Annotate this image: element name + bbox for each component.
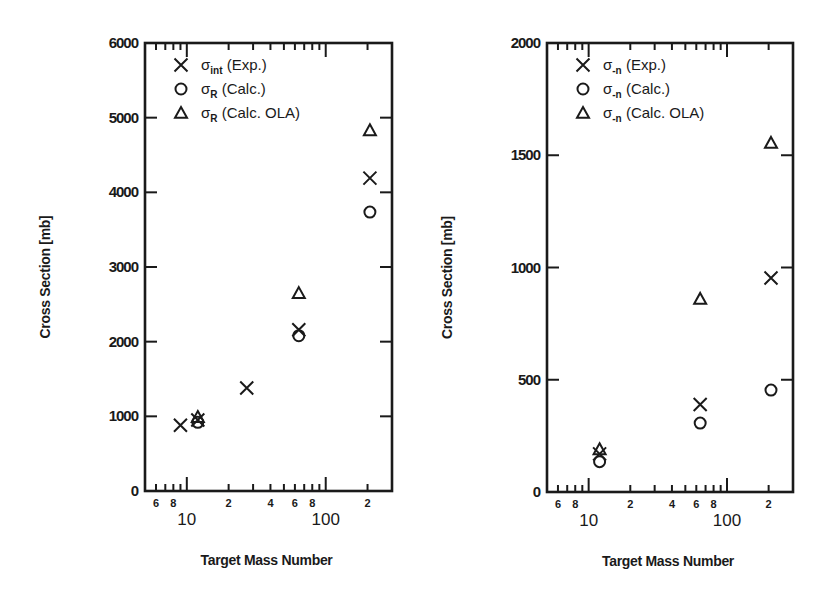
legend-description: (Calc. OLA) bbox=[622, 104, 705, 121]
right-panel-neutron-removal-chart: 0500100015002000682468210100Target Mass … bbox=[439, 34, 793, 569]
x-major-tick-label: 100 bbox=[312, 510, 340, 529]
x-minor-tick-label: 8 bbox=[572, 498, 578, 510]
data-series-triangle bbox=[192, 124, 376, 422]
x-minor-tick-label: 2 bbox=[766, 498, 772, 510]
x-marker-icon bbox=[764, 272, 777, 285]
x-minor-tick-label: 8 bbox=[309, 497, 315, 509]
y-tick-label: 1500 bbox=[511, 146, 541, 163]
y-tick-label: 500 bbox=[518, 371, 541, 388]
legend-entry-label: σ-n (Exp.) bbox=[603, 56, 666, 76]
legend-description: (Calc.) bbox=[622, 80, 670, 97]
figure: 0100020003000400050006000682468210100Tar… bbox=[0, 0, 833, 602]
legend-entry-label: σR (Calc. OLA) bbox=[201, 104, 300, 124]
legend-description: (Exp.) bbox=[622, 56, 666, 73]
triangle-marker-icon bbox=[765, 137, 777, 148]
legend-entry-label: σint (Exp.) bbox=[201, 56, 267, 76]
y-tick-label: 2000 bbox=[511, 34, 541, 51]
x-minor-tick-label: 6 bbox=[555, 498, 561, 510]
x-major-tick-label: 10 bbox=[177, 510, 196, 529]
scatter-plots: 0100020003000400050006000682468210100Tar… bbox=[0, 0, 833, 602]
data-series-x bbox=[174, 172, 376, 432]
data-series-circle bbox=[594, 385, 776, 468]
legend-description: (Calc. OLA) bbox=[218, 104, 301, 121]
circle-marker-icon bbox=[578, 84, 589, 95]
circle-marker-icon bbox=[594, 456, 605, 467]
legend: σ-n (Exp.)σ-n (Calc.)σ-n (Calc. OLA) bbox=[577, 56, 705, 124]
left-panel-cross-section-chart: 0100020003000400050006000682468210100Tar… bbox=[37, 34, 392, 568]
x-marker-icon bbox=[240, 381, 253, 394]
data-series-x bbox=[593, 272, 777, 461]
triangle-marker-icon bbox=[694, 293, 706, 304]
x-minor-tick-label: 6 bbox=[292, 497, 298, 509]
circle-marker-icon bbox=[765, 385, 776, 396]
legend-subscript: -n bbox=[612, 113, 621, 124]
x-major-tick-label: 10 bbox=[579, 511, 598, 530]
x-minor-tick-label: 8 bbox=[170, 497, 176, 509]
x-axis-title: Target Mass Number bbox=[200, 552, 333, 568]
x-minor-tick-label: 2 bbox=[226, 497, 232, 509]
legend-entry-label: σ-n (Calc.) bbox=[603, 80, 670, 100]
x-major-tick-label: 100 bbox=[713, 511, 741, 530]
y-tick-label: 3000 bbox=[109, 258, 139, 275]
x-axis-title: Target Mass Number bbox=[602, 553, 735, 569]
x-marker-icon bbox=[363, 172, 376, 185]
legend-entry-label: σR (Calc.) bbox=[201, 80, 266, 100]
data-series-triangle bbox=[594, 137, 777, 454]
triangle-marker-icon bbox=[175, 107, 187, 118]
circle-marker-icon bbox=[364, 207, 375, 218]
x-minor-tick-label: 2 bbox=[627, 498, 633, 510]
x-minor-tick-label: 2 bbox=[364, 497, 370, 509]
y-axis-title: Cross Section [mb] bbox=[439, 216, 455, 339]
legend-description: (Calc.) bbox=[218, 80, 266, 97]
legend-description: (Exp.) bbox=[222, 56, 266, 73]
triangle-marker-icon bbox=[577, 107, 589, 118]
y-tick-label: 1000 bbox=[511, 259, 541, 276]
legend: σint (Exp.)σR (Calc.)σR (Calc. OLA) bbox=[175, 56, 301, 124]
x-marker-icon bbox=[694, 398, 707, 411]
y-tick-label: 6000 bbox=[109, 34, 139, 51]
legend-subscript: int bbox=[210, 65, 223, 76]
legend-subscript: -n bbox=[612, 89, 621, 100]
x-minor-tick-label: 6 bbox=[153, 497, 159, 509]
circle-marker-icon bbox=[176, 84, 187, 95]
x-marker-icon bbox=[174, 419, 187, 432]
y-axis-title: Cross Section [mb] bbox=[37, 216, 53, 339]
circle-marker-icon bbox=[695, 418, 706, 429]
y-tick-label: 2000 bbox=[109, 333, 139, 350]
triangle-marker-icon bbox=[364, 124, 376, 135]
y-tick-label: 5000 bbox=[109, 109, 139, 126]
y-tick-label: 0 bbox=[131, 482, 139, 499]
legend-entry-label: σ-n (Calc. OLA) bbox=[603, 104, 704, 124]
x-marker-icon bbox=[577, 59, 590, 72]
x-minor-tick-label: 4 bbox=[669, 498, 676, 510]
y-tick-label: 0 bbox=[533, 483, 541, 500]
y-tick-label: 1000 bbox=[109, 407, 139, 424]
x-marker-icon bbox=[175, 59, 188, 72]
circle-marker-icon bbox=[293, 330, 304, 341]
x-minor-tick-label: 8 bbox=[711, 498, 717, 510]
triangle-marker-icon bbox=[293, 287, 305, 298]
data-series-circle bbox=[192, 207, 375, 428]
legend-subscript: -n bbox=[612, 65, 621, 76]
x-minor-tick-label: 4 bbox=[267, 497, 274, 509]
y-tick-label: 4000 bbox=[109, 183, 139, 200]
x-minor-tick-label: 6 bbox=[693, 498, 699, 510]
